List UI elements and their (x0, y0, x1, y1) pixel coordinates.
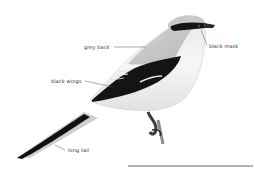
leader-line-long-tail (55, 145, 65, 150)
bird-diagram (0, 0, 254, 171)
label-black-wings: black wings (51, 78, 81, 84)
label-black-mask: black mask (209, 43, 238, 49)
bird-feet-on-perch (148, 112, 163, 144)
label-long-tail: long tail (68, 147, 89, 153)
label-grey-back: grey back (84, 44, 110, 50)
